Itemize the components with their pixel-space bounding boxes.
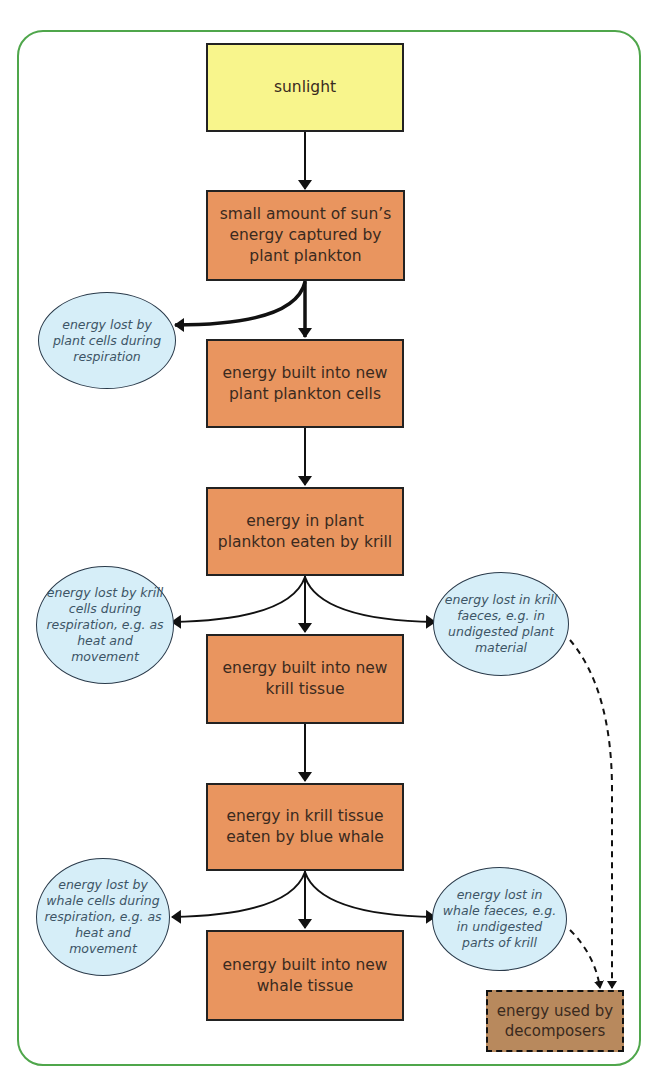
krill-tissue-box: energy built into new krill tissue	[206, 634, 404, 724]
plant-respiration-loss: energy lost by plant cells during respir…	[38, 292, 176, 389]
krill-faeces-loss: energy lost in krill faeces, e.g. in und…	[433, 572, 569, 676]
whale-respiration-loss: energy lost by whale cells during respir…	[36, 858, 170, 976]
krill-respiration-loss: energy lost by krill cells during respir…	[36, 566, 174, 684]
sunlight-box: sunlight	[206, 43, 404, 132]
eaten-by-whale-box: energy in krill tissue eaten by blue wha…	[206, 783, 404, 871]
whale-faeces-loss: energy lost in whale faeces, e.g. in und…	[432, 867, 567, 971]
energy-captured-box: small amount of sun’s energy captured by…	[206, 190, 405, 281]
plankton-cells-box: energy built into new plant plankton cel…	[206, 339, 404, 428]
eaten-by-krill-box: energy in plant plankton eaten by krill	[206, 487, 404, 576]
decomposers-box: energy used by decomposers	[486, 990, 624, 1052]
whale-tissue-box: energy built into new whale tissue	[206, 930, 404, 1021]
